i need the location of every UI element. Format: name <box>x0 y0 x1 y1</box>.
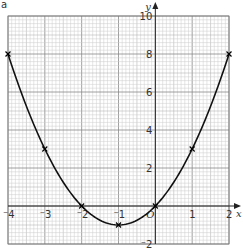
parabola-chart: axy⁻4⁻3⁻2⁻1O12⁻2246810 <box>0 0 243 251</box>
x-tick-label: ⁻3 <box>40 209 52 220</box>
x-tick-label: 2 <box>226 209 232 220</box>
x-tick-label: ⁻4 <box>3 209 15 220</box>
figure-label: a <box>1 0 7 10</box>
y-tick-label: 10 <box>140 11 153 22</box>
x-tick-label: ⁻1 <box>114 209 126 220</box>
x-axis-label: x <box>236 208 242 219</box>
y-tick-label: 8 <box>146 49 152 60</box>
x-tick-label: 1 <box>189 209 195 220</box>
y-tick-label: ⁻2 <box>141 239 153 250</box>
y-tick-label: 2 <box>146 163 152 174</box>
y-tick-label: 6 <box>146 87 152 98</box>
y-tick-label: 4 <box>146 125 152 136</box>
y-axis-arrow-icon <box>152 2 158 9</box>
